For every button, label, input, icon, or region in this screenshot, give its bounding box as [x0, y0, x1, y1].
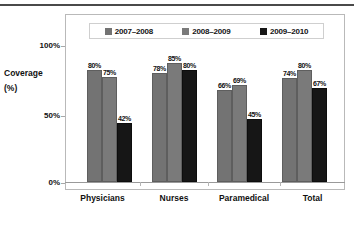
bar[interactable] — [152, 73, 167, 182]
bar-value-label: 67% — [313, 80, 326, 87]
y-tick-label-0: 0% — [48, 178, 60, 187]
x-tick-label-physicians: Physicians — [65, 193, 140, 203]
bar-group: 74%80%67% — [282, 42, 327, 182]
bar-value-label: 85% — [168, 55, 181, 62]
y-tick-label-50: 50% — [44, 111, 60, 120]
bar-group: 80%75%42% — [87, 42, 132, 182]
bar-group: 66%69%45% — [217, 42, 262, 182]
bar-value-label: 69% — [233, 77, 246, 84]
bar-value-label: 80% — [298, 62, 311, 69]
bar-slot: 80% — [182, 42, 197, 182]
bar[interactable] — [312, 88, 327, 182]
chart-figure: Coverage (%) 100% 50% 0% 2007–2008 2008–… — [0, 0, 354, 232]
x-tick-separator-2 — [208, 182, 209, 186]
bar-value-label: 80% — [183, 62, 196, 69]
bar-slot: 45% — [247, 42, 262, 182]
bar-value-label: 78% — [153, 65, 166, 72]
bar-group-bars: 78%85%80% — [152, 42, 197, 182]
plot-axes: 80%75%42%78%85%80%66%69%45%74%80%67% — [65, 14, 345, 190]
bar-slot: 66% — [217, 42, 232, 182]
x-tick-label-nurses: Nurses — [140, 193, 208, 203]
bar-value-label: 74% — [283, 70, 296, 77]
bar-slot: 74% — [282, 42, 297, 182]
bar-slot: 85% — [167, 42, 182, 182]
plot-area: 80%75%42%78%85%80%66%69%45%74%80%67% — [77, 42, 337, 182]
bar[interactable] — [297, 70, 312, 182]
bar-slot: 75% — [102, 42, 117, 182]
bar-value-label: 75% — [103, 69, 116, 76]
bar[interactable] — [87, 70, 102, 182]
bar[interactable] — [167, 63, 182, 182]
bar-slot: 80% — [297, 42, 312, 182]
bar-slot: 80% — [87, 42, 102, 182]
bar[interactable] — [217, 90, 232, 182]
bar-value-label: 80% — [88, 62, 101, 69]
bar[interactable] — [232, 85, 247, 182]
bar-group-bars: 66%69%45% — [217, 42, 262, 182]
bar-value-label: 45% — [248, 111, 261, 118]
bar-group-bars: 80%75%42% — [87, 42, 132, 182]
bar[interactable] — [182, 70, 197, 182]
x-tick-label-total: Total — [280, 193, 345, 203]
bar-value-label: 42% — [118, 115, 131, 122]
y-axis-tick-labels: 100% 50% 0% — [0, 0, 60, 232]
bar[interactable] — [102, 77, 117, 182]
bar-slot: 67% — [312, 42, 327, 182]
bar-slot: 78% — [152, 42, 167, 182]
x-tick-separator-1 — [140, 182, 141, 186]
y-tick-label-100: 100% — [40, 41, 60, 50]
x-tick-separator-3 — [280, 182, 281, 186]
bar-slot: 42% — [117, 42, 132, 182]
bar[interactable] — [247, 119, 262, 182]
bar-value-label: 66% — [218, 82, 231, 89]
bar-group: 78%85%80% — [152, 42, 197, 182]
x-tick-label-paramedical: Paramedical — [208, 193, 280, 203]
bar[interactable] — [282, 78, 297, 182]
x-axis-baseline — [65, 182, 345, 183]
bar-group-bars: 74%80%67% — [282, 42, 327, 182]
bar-slot: 69% — [232, 42, 247, 182]
bar[interactable] — [117, 123, 132, 182]
